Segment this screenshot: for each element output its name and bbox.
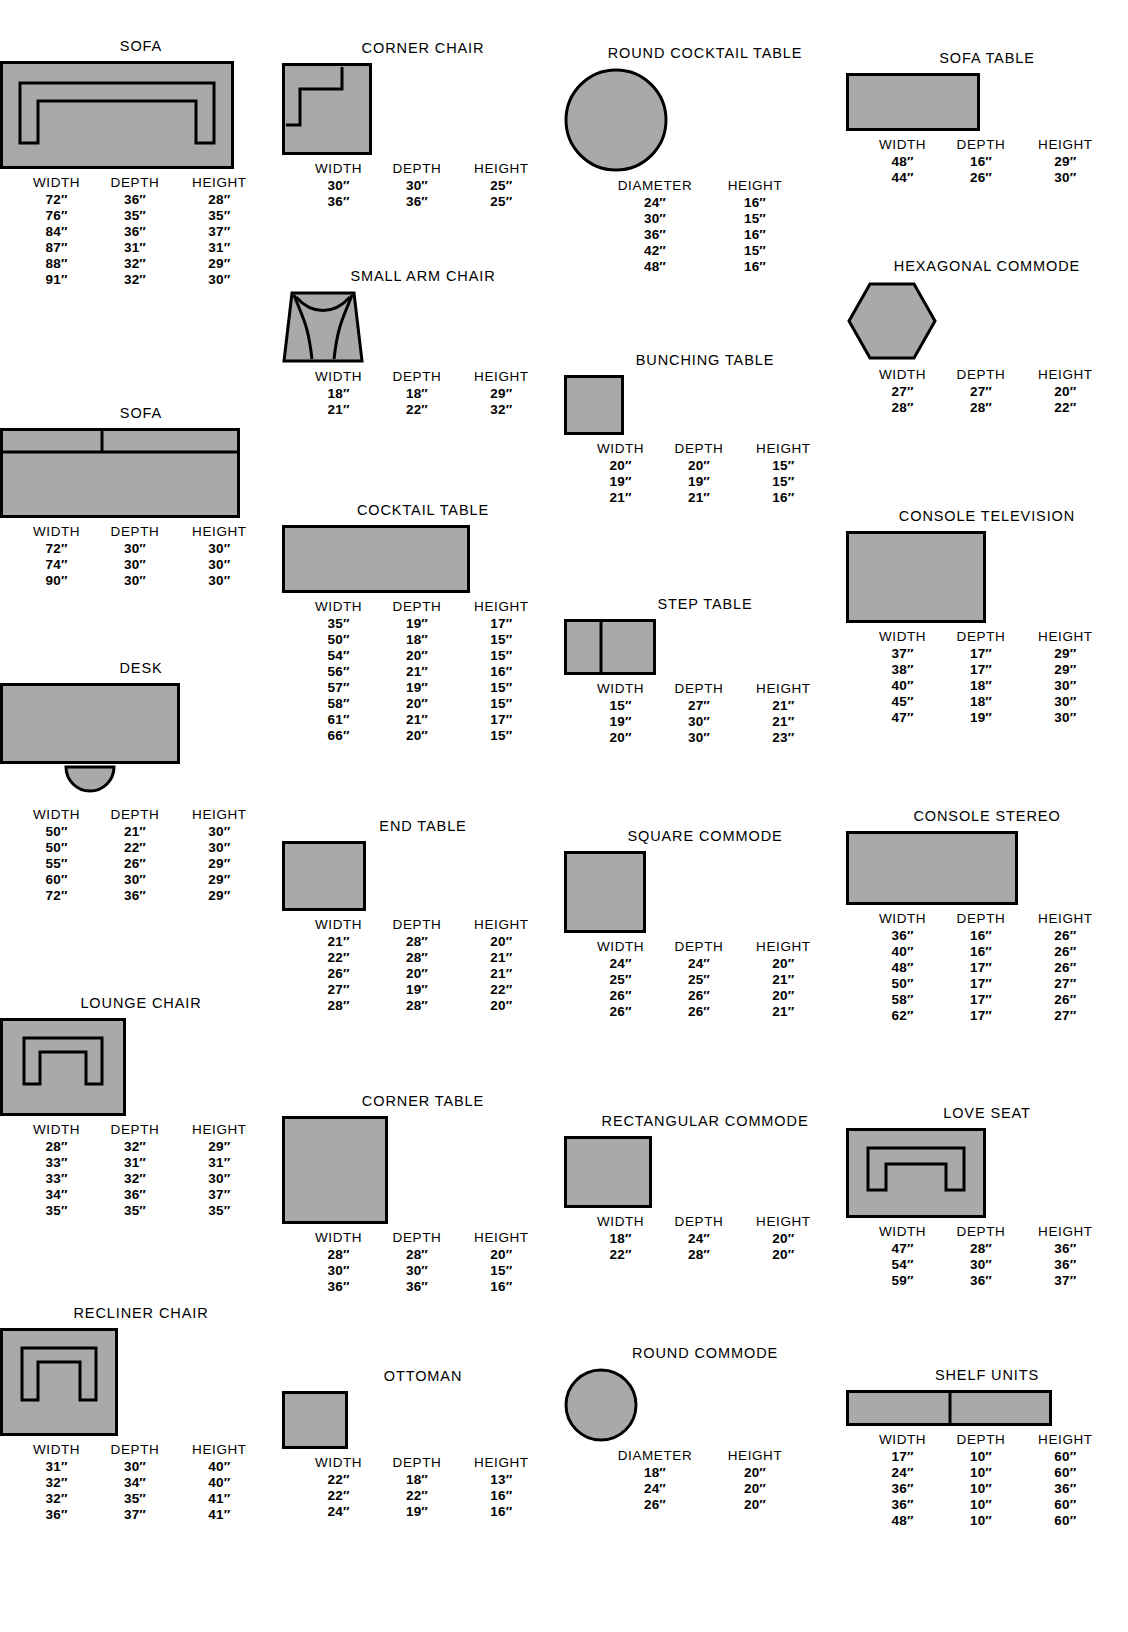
dimension-cell: 15″ xyxy=(457,695,546,711)
column-header-height: HEIGHT xyxy=(705,1448,805,1464)
dimension-cell: 30″ xyxy=(941,1256,1021,1272)
dimension-cell: 50″ xyxy=(864,975,941,991)
dimension-cell: 25″ xyxy=(457,193,546,209)
dimension-cell: 22″ xyxy=(1021,399,1110,415)
shape-diagram-step-table xyxy=(564,619,846,675)
dimension-cell: 48″ xyxy=(864,153,941,169)
dimension-cell: 19″ xyxy=(377,615,457,631)
column-header-height: HEIGHT xyxy=(1021,1432,1110,1448)
table-header-row: WIDTHDEPTHHEIGHT xyxy=(300,369,546,385)
dimension-cell: 20″ xyxy=(739,955,828,971)
table-header-row: WIDTHDEPTHHEIGHT xyxy=(300,1455,546,1471)
dimension-cell: 26″ xyxy=(582,987,659,1003)
dimension-cell: 40″ xyxy=(175,1458,264,1474)
column-header-height: HEIGHT xyxy=(175,1442,264,1458)
dimension-cell: 30″ xyxy=(95,871,175,887)
dimension-cell: 24″ xyxy=(582,955,659,971)
dimension-cell: 32″ xyxy=(95,255,175,271)
furniture-item-ottoman: OTTOMANWIDTHDEPTHHEIGHT22″18″13″22″22″16… xyxy=(282,1368,564,1519)
dimension-cell: 20″ xyxy=(377,647,457,663)
table-row: 50″22″30″ xyxy=(18,839,264,855)
dimension-cell: 42″ xyxy=(605,242,705,258)
table-row: 47″28″36″ xyxy=(864,1240,1110,1256)
dimension-cell: 18″ xyxy=(605,1464,705,1480)
table-row: 36″16″26″ xyxy=(864,927,1110,943)
dimension-cell: 37″ xyxy=(175,223,264,239)
dimension-cell: 60″ xyxy=(1021,1464,1110,1480)
column-1: SOFAWIDTHDEPTHHEIGHT72″36″28″76″35″35″84… xyxy=(0,0,282,1632)
dimension-cell: 24″ xyxy=(659,955,739,971)
dimension-cell: 20″ xyxy=(739,987,828,1003)
furniture-item-corner-table: CORNER TABLEWIDTHDEPTHHEIGHT28″28″20″30″… xyxy=(282,1093,564,1294)
table-row: 22″28″20″ xyxy=(582,1246,828,1262)
dimension-cell: 19″ xyxy=(659,473,739,489)
table-row: 36″36″25″ xyxy=(300,193,546,209)
table-header-row: WIDTHDEPTHHEIGHT xyxy=(300,599,546,615)
table-header-row: WIDTHDEPTHHEIGHT xyxy=(18,175,264,191)
column-header-height: HEIGHT xyxy=(1021,911,1110,927)
table-row: 44″26″30″ xyxy=(864,169,1110,185)
dimension-cell: 35″ xyxy=(175,1202,264,1218)
column-header-diameter: DIAMETER xyxy=(605,1448,705,1464)
dimension-cell: 21″ xyxy=(457,965,546,981)
table-row: 55″26″29″ xyxy=(18,855,264,871)
dimension-cell: 16″ xyxy=(739,489,828,505)
dimension-cell: 17″ xyxy=(941,975,1021,991)
furniture-item-square-commode: SQUARE COMMODEWIDTHDEPTHHEIGHT24″24″20″2… xyxy=(564,828,846,1019)
dimension-cell: 26″ xyxy=(659,1003,739,1019)
shape-diagram-cocktail-table xyxy=(282,525,564,593)
dimension-cell: 16″ xyxy=(941,927,1021,943)
dimension-table-ottoman: WIDTHDEPTHHEIGHT22″18″13″22″22″16″24″19″… xyxy=(300,1455,546,1519)
table-row: 24″24″20″ xyxy=(582,955,828,971)
table-row: 18″20″ xyxy=(605,1464,805,1480)
table-row: 40″18″30″ xyxy=(864,677,1110,693)
dimension-cell: 20″ xyxy=(457,933,546,949)
column-3: ROUND COCKTAIL TABLEDIAMETERHEIGHT24″16″… xyxy=(564,0,846,1632)
table-row: 19″30″21″ xyxy=(582,713,828,729)
dimension-cell: 22″ xyxy=(300,949,377,965)
dimension-cell: 15″ xyxy=(739,457,828,473)
dimension-cell: 30″ xyxy=(377,1262,457,1278)
dimension-cell: 21″ xyxy=(95,823,175,839)
dimension-cell: 36″ xyxy=(300,193,377,209)
dimension-cell: 15″ xyxy=(705,210,805,226)
column-header-height: HEIGHT xyxy=(739,939,828,955)
table-row: 35″19″17″ xyxy=(300,615,546,631)
dimension-cell: 36″ xyxy=(864,1480,941,1496)
shape-diagram-hexagonal-commode xyxy=(846,281,1128,361)
furniture-item-console-stereo: CONSOLE STEREOWIDTHDEPTHHEIGHT36″16″26″4… xyxy=(846,808,1128,1023)
column-header-depth: DEPTH xyxy=(941,1224,1021,1240)
dimension-cell: 26″ xyxy=(300,965,377,981)
dimension-cell: 26″ xyxy=(1021,959,1110,975)
dimension-cell: 30″ xyxy=(1021,677,1110,693)
column-header-width: WIDTH xyxy=(18,524,95,540)
dimension-table-cocktail-table: WIDTHDEPTHHEIGHT35″19″17″50″18″15″54″20″… xyxy=(300,599,546,743)
table-row: 19″19″15″ xyxy=(582,473,828,489)
dimension-cell: 29″ xyxy=(1021,661,1110,677)
dimension-cell: 54″ xyxy=(864,1256,941,1272)
dimension-cell: 20″ xyxy=(457,1246,546,1262)
column-header-width: WIDTH xyxy=(300,161,377,177)
dimension-cell: 15″ xyxy=(582,697,659,713)
dimension-cell: 10″ xyxy=(941,1496,1021,1512)
column-2: CORNER CHAIRWIDTHDEPTHHEIGHT30″30″25″36″… xyxy=(282,0,564,1632)
dimension-cell: 36″ xyxy=(941,1272,1021,1288)
dimension-cell: 29″ xyxy=(1021,153,1110,169)
item-title-sofa-1: SOFA xyxy=(0,38,282,54)
dimension-cell: 55″ xyxy=(18,855,95,871)
table-header-row: WIDTHDEPTHHEIGHT xyxy=(864,1224,1110,1240)
dimension-cell: 10″ xyxy=(941,1480,1021,1496)
dimension-cell: 36″ xyxy=(95,223,175,239)
dimension-cell: 32″ xyxy=(95,1170,175,1186)
dimension-table-console-stereo: WIDTHDEPTHHEIGHT36″16″26″40″16″26″48″17″… xyxy=(864,911,1110,1023)
dimension-cell: 27″ xyxy=(1021,1007,1110,1023)
column-header-width: WIDTH xyxy=(300,917,377,933)
table-row: 58″20″15″ xyxy=(300,695,546,711)
shape-diagram-console-stereo xyxy=(846,831,1128,905)
furniture-item-sofa-table: SOFA TABLEWIDTHDEPTHHEIGHT48″16″29″44″26… xyxy=(846,50,1128,185)
item-title-corner-chair: CORNER CHAIR xyxy=(282,40,564,56)
dimension-cell: 21″ xyxy=(300,933,377,949)
dimension-cell: 28″ xyxy=(864,399,941,415)
table-row: 76″35″35″ xyxy=(18,207,264,223)
dimension-table-shelf-units: WIDTHDEPTHHEIGHT17″10″60″24″10″60″36″10″… xyxy=(864,1432,1110,1528)
